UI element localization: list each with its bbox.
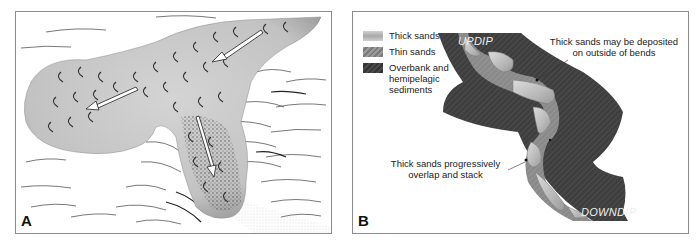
legend-item-thick-sands: Thick sands: [363, 30, 459, 41]
overbank-swatch: [363, 63, 383, 73]
legend-label: Thick sands: [389, 30, 440, 41]
legend-item-overbank: Overbank and hemipelagic sediments: [363, 62, 459, 95]
thin-sands-swatch: [363, 47, 383, 57]
panel-a: A: [15, 11, 332, 234]
panel-b: Thick sands Thin sands Overbank and hemi…: [352, 11, 689, 234]
legend-item-thin-sands: Thin sands: [363, 46, 459, 57]
fan-lobe-illustration: [16, 12, 332, 234]
legend-label: Overbank and hemipelagic sediments: [389, 62, 459, 95]
updip-label: UPDIP: [458, 35, 493, 47]
legend: Thick sands Thin sands Overbank and hemi…: [363, 30, 459, 100]
overbank-area: [438, 33, 628, 221]
annotation-overlap-stack: Thick sands progressively overlap and st…: [383, 158, 508, 180]
downdip-label: DOWNDIP: [581, 206, 636, 218]
panel-label-a: A: [21, 212, 32, 229]
thick-sands-swatch: [363, 31, 383, 41]
annotation-outside-bends: Thick sands may be deposited on outside …: [549, 36, 679, 58]
panel-label-b: B: [358, 212, 369, 229]
legend-label: Thin sands: [389, 46, 435, 57]
